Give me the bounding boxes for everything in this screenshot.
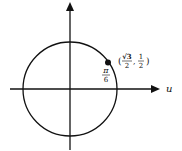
point-marker — [105, 60, 111, 66]
point-y-numerator: 1 — [139, 53, 143, 61]
point-y-denominator: 2 — [139, 62, 143, 70]
angle-label: π 6 — [102, 66, 110, 84]
point-label-close-paren: ) — [146, 56, 150, 66]
vertical-axis-arrow-icon — [66, 2, 74, 11]
angle-numerator: π — [102, 66, 109, 75]
point-label-open-paren: ( — [118, 56, 122, 66]
horizontal-axis-arrow-icon — [151, 85, 160, 93]
point-label: ( √3 2 , 1 2 ) — [118, 52, 150, 70]
horizontal-axis-label: u — [166, 83, 172, 94]
unit-circle-diagram: π 6 ( √3 2 , 1 2 ) u — [0, 0, 182, 151]
point-x-denominator: 2 — [125, 62, 129, 70]
point-label-separator: , — [133, 57, 136, 66]
angle-denominator: 6 — [104, 76, 109, 84]
point-x-numerator: √3 — [122, 52, 132, 61]
